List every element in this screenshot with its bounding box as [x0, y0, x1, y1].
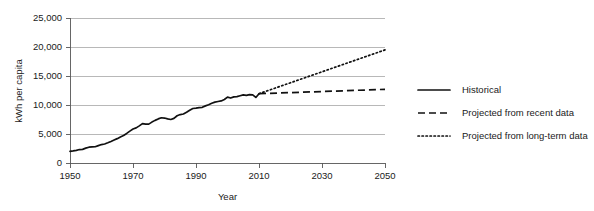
chart-figure: 05,00010,00015,00020,00025,000 195019701… — [0, 0, 594, 211]
x-tick-label-2010: 2010 — [248, 170, 269, 181]
x-axis-title: Year — [218, 191, 237, 202]
legend-label-historical: Historical — [462, 84, 501, 95]
x-tick-label-1950: 1950 — [59, 170, 80, 181]
x-tick-marks-group — [70, 163, 385, 168]
chart-legend: HistoricalProjected from recent dataProj… — [418, 84, 588, 141]
x-tick-label-1970: 1970 — [122, 170, 143, 181]
energy-per-capita-line-chart: 05,00010,00015,00020,00025,000 195019701… — [0, 0, 594, 211]
series-line-historical — [70, 94, 259, 152]
y-tick-label-10000: 10,000 — [33, 99, 62, 110]
legend-item-projected-from-recent-data: Projected from recent data — [418, 107, 575, 118]
y-axis-tick-labels: 05,00010,00015,00020,00025,000 — [33, 12, 70, 168]
y-tick-label-15000: 15,000 — [33, 70, 62, 81]
gridlines-group — [70, 18, 385, 134]
x-axis-tick-labels: 195019701990201020302050 — [59, 170, 395, 181]
x-tick-label-2050: 2050 — [374, 170, 395, 181]
y-tick-label-20000: 20,000 — [33, 41, 62, 52]
y-tick-label-0: 0 — [57, 157, 62, 168]
x-tick-label-1990: 1990 — [185, 170, 206, 181]
y-tick-label-5000: 5,000 — [38, 128, 62, 139]
y-tick-label-25000: 25,000 — [33, 12, 62, 23]
series-line-projected-from-long-term-data — [259, 50, 385, 94]
legend-label-projected-from-recent-data: Projected from recent data — [462, 107, 575, 118]
legend-item-historical: Historical — [418, 84, 501, 95]
legend-label-projected-from-long-term-data: Projected from long-term data — [462, 130, 588, 141]
legend-item-projected-from-long-term-data: Projected from long-term data — [418, 130, 588, 141]
y-axis-title: kWh per capita — [13, 59, 24, 123]
x-tick-label-2030: 2030 — [311, 170, 332, 181]
series-line-projected-from-recent-data — [259, 89, 385, 93]
data-series-group — [70, 50, 385, 151]
